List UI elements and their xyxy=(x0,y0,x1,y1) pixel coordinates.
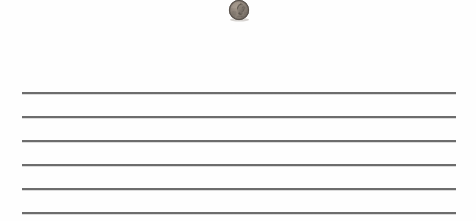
coin-grain xyxy=(229,0,249,20)
rule-line-2 xyxy=(22,116,456,118)
penny-icon xyxy=(223,0,255,37)
rule-line-6 xyxy=(22,212,456,214)
rule-line-3 xyxy=(22,140,456,142)
rule-line-4 xyxy=(22,164,456,166)
rule-line-1 xyxy=(22,92,456,94)
coin-object xyxy=(223,0,255,37)
rule-line-5 xyxy=(22,188,456,190)
scanned-page-canvas xyxy=(0,0,476,221)
